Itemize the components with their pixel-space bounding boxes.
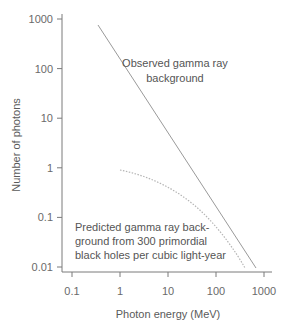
x-ticks [72, 272, 264, 277]
y-tick-label: 0.1 [38, 211, 53, 223]
x-tick-label: 1 [117, 285, 123, 297]
y-tick-label: 10 [41, 112, 53, 124]
svg-text:Observed gamma ray: Observed gamma ray [122, 57, 228, 69]
y-tick-label: 100 [35, 63, 53, 75]
svg-text:Predicted gamma ray back-: Predicted gamma ray back- [75, 221, 210, 233]
observed-annotation: Observed gamma ray background [122, 57, 228, 84]
y-ticks [57, 19, 62, 267]
x-tick-label: 100 [207, 285, 225, 297]
x-tick-label: 0.1 [64, 285, 79, 297]
y-axis-title: Number of photons [10, 98, 22, 192]
svg-text:black holes per cubic light-ye: black holes per cubic light-year [75, 249, 226, 261]
x-tick-label: 1000 [252, 285, 276, 297]
y-tick-label: 1 [47, 162, 53, 174]
x-axis-title: Photon energy (MeV) [116, 308, 221, 320]
svg-text:background: background [146, 72, 204, 84]
y-tick-label: 1000 [29, 13, 53, 25]
chart: 1000 100 10 1 0.1 0.01 0.1 1 10 100 1000… [0, 0, 290, 334]
svg-text:ground from 300 primordial: ground from 300 primordial [75, 235, 207, 247]
predicted-annotation: Predicted gamma ray back- ground from 30… [75, 221, 226, 261]
y-tick-label: 0.01 [32, 261, 53, 273]
x-tick-label: 10 [162, 285, 174, 297]
